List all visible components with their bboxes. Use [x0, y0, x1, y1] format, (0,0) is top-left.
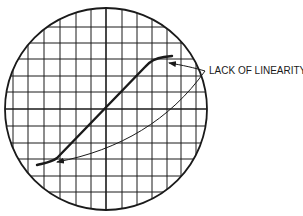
annotation-arrows: [57, 63, 205, 162]
arrow-to-lower-end: [57, 71, 205, 162]
graticule-grid: [0, 0, 220, 216]
arrow-to-upper-end: [169, 63, 205, 71]
horizontal-grid-lines: [0, 27, 220, 192]
lack-of-linearity-label: LACK OF LINEARITY: [209, 65, 303, 76]
oscilloscope-graticule-diagram: [0, 0, 303, 216]
